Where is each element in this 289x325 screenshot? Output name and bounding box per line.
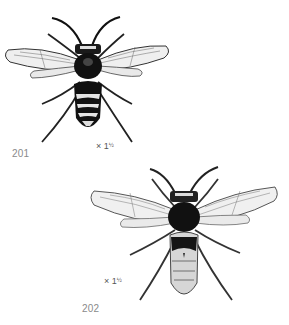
wasp-illustration-201 [0, 0, 180, 160]
scale-label-202: × 1½ [104, 276, 122, 286]
scale-fraction: ½ [117, 277, 122, 283]
figure-202 [80, 155, 289, 325]
figure-201 [0, 0, 180, 160]
wasp-illustration-202 [80, 155, 289, 325]
scale-label-201: × 1½ [96, 141, 114, 151]
figure-number-202: 202 [82, 303, 99, 314]
figure-number-201: 201 [12, 148, 29, 159]
scale-prefix: × 1 [96, 141, 109, 151]
scale-fraction: ½ [109, 142, 114, 148]
scale-prefix: × 1 [104, 276, 117, 286]
